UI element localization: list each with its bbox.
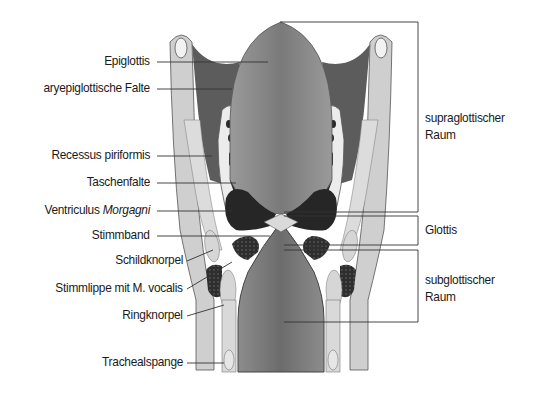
label-ringknorpel: Ringknorpel [123,307,184,322]
label-ventriculus-text: Ventriculus [44,202,102,217]
label-recessus-piriformis: Recessus piriformis [51,147,150,162]
epiglottis-tip-left [175,38,187,58]
label-subglottischer-line2: Raum [425,288,495,305]
label-stimmlippe-vocalis: Stimmlippe mit M. vocalis [56,280,183,295]
label-subglottischer-raum: subglottischer Raum [425,271,495,305]
vocalis-right [303,236,330,260]
label-supraglottischer-line2: Raum [425,126,505,143]
label-aryepiglottische-falte: aryepiglottische Falte [44,80,150,95]
vocalis-left [232,236,259,260]
label-schildknorpel: Schildknorpel [115,252,183,267]
larynx-diagram [0,0,539,398]
label-epiglottis: Epiglottis [104,53,150,68]
label-trachealspange: Trachealspange [102,354,183,369]
label-subglottischer-line1: subglottischer [425,271,495,288]
label-glottis-line1: Glottis [425,222,457,237]
label-taschenfalte: Taschenfalte [86,174,150,189]
label-ventriculus-morgagni: Ventriculus Morgagni [44,202,150,217]
epiglottis [230,22,332,214]
tracheal-ring-left [224,350,234,370]
label-morgagni-italic: Morgagni [103,202,150,217]
label-glottis: Glottis [425,222,457,237]
tracheal-ring-right [328,350,338,370]
label-supraglottischer-raum: supraglottischer Raum [425,109,505,143]
label-supraglottischer-line1: supraglottischer [425,109,505,126]
epiglottis-tip-right [375,38,387,58]
label-stimmband: Stimmband [92,227,150,242]
